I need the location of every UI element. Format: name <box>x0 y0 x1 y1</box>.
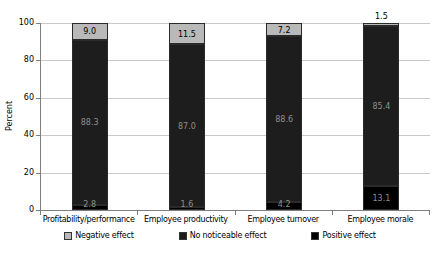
y-tick <box>36 173 40 174</box>
bar-segment-negative-effect <box>363 23 399 26</box>
legend-label: Negative effect <box>75 231 133 240</box>
legend: Negative effectNo noticeable effectPosit… <box>0 231 440 240</box>
legend-item: Positive effect <box>311 231 375 240</box>
y-tick <box>36 135 40 136</box>
value-label: 9.0 <box>72 27 108 36</box>
y-tick-label: 40 <box>0 130 34 140</box>
value-label: 1.5 <box>363 12 399 21</box>
y-tick-label: 60 <box>0 93 34 103</box>
x-tick <box>137 211 138 215</box>
y-tick <box>36 98 40 99</box>
value-label: 13.1 <box>363 194 399 203</box>
value-label: 4.2 <box>266 200 302 209</box>
category-label: Employee productivity <box>137 215 234 224</box>
legend-marker-no-noticeable-effect <box>179 232 187 240</box>
stacked-bar-chart: Percent 2.888.39.01.687.011.54.288.67.21… <box>0 0 440 255</box>
legend-item: No noticeable effect <box>179 231 267 240</box>
y-tick <box>36 23 40 24</box>
x-tick <box>429 211 430 215</box>
y-tick <box>36 60 40 61</box>
legend-item: Negative effect <box>64 231 133 240</box>
y-tick-label: 100 <box>0 18 34 28</box>
x-tick <box>235 211 236 215</box>
legend-label: Positive effect <box>322 231 375 240</box>
legend-marker-positive-effect <box>311 232 319 240</box>
value-label: 1.6 <box>169 200 205 209</box>
x-tick <box>40 211 41 215</box>
category-label: Employee turnover <box>235 215 332 224</box>
value-label: 11.5 <box>169 30 205 39</box>
legend-marker-negative-effect <box>64 232 72 240</box>
category-label: Employee morale <box>332 215 429 224</box>
y-tick-label: 80 <box>0 55 34 65</box>
y-tick-label: 20 <box>0 168 34 178</box>
value-label: 7.2 <box>266 26 302 35</box>
plot-area: 2.888.39.01.687.011.54.288.67.213.185.41… <box>40 23 430 211</box>
value-label: 85.4 <box>363 102 399 111</box>
value-label: 2.8 <box>72 200 108 209</box>
y-tick-label: 0 <box>0 205 34 215</box>
value-label: 88.6 <box>266 115 302 124</box>
x-tick <box>332 211 333 215</box>
value-label: 88.3 <box>72 118 108 127</box>
legend-label: No noticeable effect <box>190 231 267 240</box>
category-label: Profitability/performance <box>40 215 137 224</box>
value-label: 87.0 <box>169 122 205 131</box>
y-axis-title: Percent <box>5 101 14 131</box>
